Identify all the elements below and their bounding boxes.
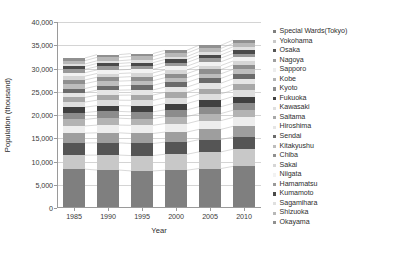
bar-segment: [199, 107, 221, 114]
legend-item[interactable]: Sagamihara: [272, 199, 400, 209]
y-tick-label: 35,000: [5, 41, 53, 50]
legend-item[interactable]: Osaka: [272, 46, 400, 56]
bar-segment: [199, 78, 221, 83]
bar-segment: [131, 95, 153, 100]
bar-segment: [199, 89, 221, 94]
bar-segment: [233, 40, 255, 43]
y-tick-label: 10,000: [5, 157, 53, 166]
x-tick-label: 2010: [236, 212, 252, 221]
bar-segment: [131, 156, 153, 171]
bar-segment: [199, 129, 221, 139]
bar-segment: [131, 119, 153, 126]
bar-segment: [233, 117, 255, 126]
bar-segment: [131, 112, 153, 119]
bar-segment: [131, 133, 153, 143]
bar-segment: [233, 57, 255, 61]
bar-segment: [97, 70, 119, 74]
legend-swatch-icon: [273, 154, 276, 157]
bar-segment: [233, 61, 255, 65]
gridline: [57, 22, 261, 23]
bar-segment: [199, 55, 221, 58]
legend-item[interactable]: Niigata: [272, 170, 400, 180]
bar-segment: [233, 50, 255, 53]
legend-item[interactable]: Kawasaki: [272, 103, 400, 113]
bar-segment: [131, 90, 153, 95]
bar-segment: [199, 45, 221, 48]
bar-segment: [165, 142, 187, 154]
bar-segment: [131, 69, 153, 73]
bar-segment: [97, 86, 119, 90]
bar-segment: [165, 66, 187, 70]
legend-item[interactable]: Special Wards(Tokyo): [272, 27, 400, 37]
legend-item[interactable]: Saitama: [272, 113, 400, 123]
y-tick-mark: [54, 208, 57, 209]
bar-segment: [233, 126, 255, 137]
bar-segment: [233, 47, 255, 50]
legend-swatch-icon: [273, 40, 276, 43]
legend-item[interactable]: Sakai: [272, 161, 400, 171]
bar-segment: [199, 94, 221, 100]
legend-item[interactable]: Nagoya: [272, 56, 400, 66]
legend-item[interactable]: Yokohama: [272, 37, 400, 47]
legend-swatch-icon: [273, 135, 276, 138]
bar-segment: [165, 132, 187, 142]
bar-segment: [233, 166, 255, 208]
bar-segment: [63, 119, 85, 126]
legend-swatch-icon: [273, 116, 276, 119]
legend-item[interactable]: Kobe: [272, 75, 400, 85]
bar-segment: [97, 118, 119, 125]
bar-segment: [63, 69, 85, 72]
bar-segment: [97, 100, 119, 105]
legend-swatch-icon: [273, 59, 276, 62]
bar-segment: [97, 125, 119, 133]
legend-item[interactable]: Okayama: [272, 218, 400, 228]
x-tick-label: 2000: [168, 212, 184, 221]
legend-label: Sakai: [280, 161, 298, 171]
bar-segment: [97, 57, 119, 60]
bar-segment: [233, 69, 255, 74]
bar-segment: [63, 61, 85, 64]
legend-item[interactable]: Kyoto: [272, 84, 400, 94]
legend-item[interactable]: Fukuoka: [272, 94, 400, 104]
legend-label: Sendai: [280, 132, 302, 142]
legend: Special Wards(Tokyo)YokohamaOsakaNagoyaS…: [272, 27, 400, 227]
legend-item[interactable]: Sendai: [272, 132, 400, 142]
bar-segment: [97, 111, 119, 118]
bar-segment: [97, 133, 119, 143]
legend-label: Nagoya: [280, 56, 304, 66]
y-tick-mark: [54, 138, 57, 139]
legend-item[interactable]: Sapporo: [272, 65, 400, 75]
legend-item[interactable]: Hamamatsu: [272, 180, 400, 190]
bar-segment: [63, 133, 85, 143]
legend-swatch-icon: [273, 107, 276, 110]
legend-item[interactable]: Kumamoto: [272, 189, 400, 199]
legend-item[interactable]: Chiba: [272, 151, 400, 161]
bar-segment: [131, 81, 153, 86]
legend-item[interactable]: Hiroshima: [272, 122, 400, 132]
legend-label: Kitakyushu: [280, 142, 314, 152]
plot-area: 05,00010,00015,00020,00025,00030,00035,0…: [57, 22, 261, 208]
bar-2005: [199, 45, 221, 208]
bar-segment: [199, 69, 221, 73]
legend-item[interactable]: Shizuoka: [272, 208, 400, 218]
bar-segment: [131, 66, 153, 70]
legend-swatch-icon: [273, 49, 276, 52]
bar-segment: [165, 170, 187, 208]
bar-segment: [97, 63, 119, 66]
bar-segment: [131, 85, 153, 90]
bar-segment: [165, 82, 187, 87]
legend-item[interactable]: Kitakyushu: [272, 142, 400, 152]
x-tick-mark: [244, 208, 245, 211]
bar-segment: [63, 155, 85, 169]
gridline: [57, 69, 261, 70]
bar-segment: [63, 93, 85, 98]
x-tick-mark: [108, 208, 109, 211]
bar-segment: [165, 117, 187, 124]
bar-2010: [233, 40, 255, 208]
legend-swatch-icon: [273, 192, 276, 195]
bar-segment: [97, 143, 119, 155]
y-tick-label: 30,000: [5, 64, 53, 73]
bar-segment: [199, 100, 221, 107]
bar-segment: [233, 54, 255, 58]
legend-label: Niigata: [280, 170, 302, 180]
